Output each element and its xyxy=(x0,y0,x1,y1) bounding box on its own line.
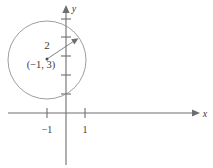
y-axis-label: y xyxy=(71,3,77,14)
x-tick-label-minus-1: −1 xyxy=(42,124,53,135)
radius-arrowhead xyxy=(71,38,78,44)
x-axis-label: x xyxy=(202,108,208,119)
radius-label: 2 xyxy=(44,39,50,51)
x-axis-arrowhead xyxy=(192,109,200,116)
graph-canvas: 2 (−1, 3) −1 1 x y xyxy=(0,0,213,168)
x-tick-label-1: 1 xyxy=(83,124,88,135)
center-coordinate-label: (−1, 3) xyxy=(27,59,56,71)
circle-graph-figure: 2 (−1, 3) −1 1 x y xyxy=(0,0,213,168)
y-axis-arrowhead xyxy=(62,5,69,13)
